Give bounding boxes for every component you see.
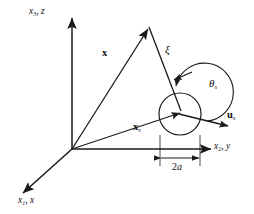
figure-root: x3, z x2, y x1, x x ξ xs us θs 2a	[0, 0, 254, 214]
source-direction-vector-label: us	[227, 110, 235, 121]
angle-arc-arrow	[176, 63, 233, 121]
depth-axis-line	[23, 149, 72, 193]
separation-vector-label: ξ	[165, 44, 170, 55]
diagram-canvas	[0, 0, 254, 214]
aperture-diameter-label: 2a	[172, 162, 182, 172]
separation-vector-line	[149, 27, 181, 111]
scattering-angle-label: θs	[209, 78, 217, 89]
source-point-vector-label: xs	[133, 122, 141, 133]
axis-lines	[23, 18, 211, 193]
horizontal-axis-label: x2, y	[214, 142, 230, 152]
depth-axis-label: x1, x	[18, 196, 34, 206]
vertical-axis-label: x3, z	[29, 7, 45, 17]
source-point-vector-line	[72, 113, 180, 149]
field-point-vector-label: x	[102, 48, 107, 59]
